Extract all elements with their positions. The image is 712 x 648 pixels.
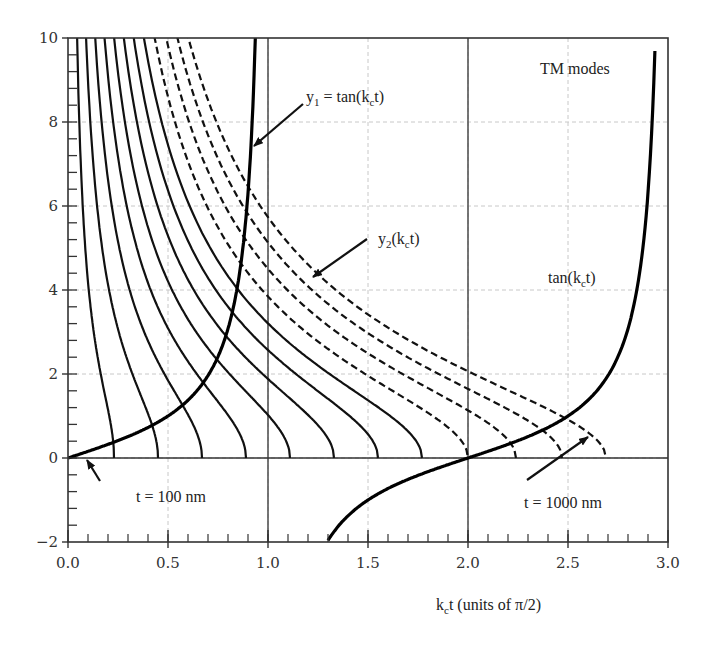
y1-label: y1 = tan(kct) (306, 88, 384, 108)
x-tick-label: 3.0 (656, 554, 680, 572)
x-tick-label: 1.5 (356, 554, 380, 572)
y-tick-label: 6 (48, 197, 58, 215)
tan-curve (328, 51, 655, 540)
t-100nm-arrow (87, 460, 100, 481)
y2-curve (120, 3, 334, 458)
t-100nm-label: t = 100 nm (136, 488, 206, 505)
x-tick-label: 2.5 (556, 554, 580, 572)
grid-lines (68, 38, 668, 542)
y2-curve (86, 23, 159, 458)
y-tick-label: −2 (36, 533, 58, 551)
x-tick-label: 0.0 (56, 554, 80, 572)
tan-label: tan(kct) (548, 269, 596, 289)
y2-curve-dashed (170, 4, 562, 458)
annotations: TM modes y1 = tan(kct) y2(kct) tan(kct) … (136, 60, 610, 616)
y2-arrow (313, 239, 367, 277)
x-axis-label: kct (units of π/2) (436, 596, 541, 616)
y1-arrow (254, 104, 303, 146)
y-tick-label: 2 (48, 365, 58, 383)
y-tick-label: 10 (39, 29, 58, 47)
y-tick-label: 0 (48, 449, 58, 467)
y2-label: y2(kct) (378, 230, 420, 250)
x-tick-label: 0.5 (156, 554, 180, 572)
tan-curve (68, 36, 255, 458)
tm-modes-label: TM modes (540, 60, 610, 77)
mode-equation-chart: 0.00.51.01.52.02.53.0−20246810 TM modes … (0, 0, 712, 648)
y-tick-label: 4 (48, 281, 58, 299)
y2-curve-dashed (160, 9, 516, 458)
t-1000nm-label: t = 1000 nm (524, 494, 602, 511)
x-tick-label: 2.0 (456, 554, 480, 572)
y-tick-label: 8 (48, 113, 58, 131)
x-tick-label: 1.0 (256, 554, 280, 572)
annotation-arrows (87, 104, 588, 481)
